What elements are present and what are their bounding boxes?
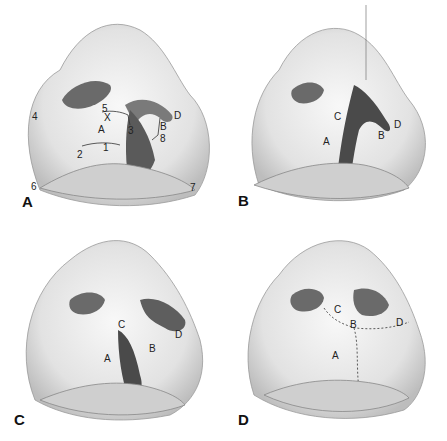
label-flap-a: A [104,354,111,364]
label-flap-c: C [334,305,341,315]
label-flap-d: D [174,111,181,121]
label-flap-b: B [160,122,167,132]
label-4: 4 [32,112,38,122]
panel-d: C B A D D [224,220,447,440]
label-flap-a: A [98,125,105,135]
label-flap-c: C [118,320,125,330]
nose-lip-illustration-b [224,0,447,220]
nose-lip-illustration-d [224,220,447,440]
panel-a: 5 X 4 A 3 1 2 D B 8 6 7 A [0,0,223,220]
label-7: 7 [190,183,196,193]
panel-letter-b: B [238,192,249,209]
label-2: 2 [77,150,83,160]
label-3: 3 [128,126,134,136]
label-x: X [104,113,111,123]
label-1: 1 [103,143,109,153]
label-flap-b: B [378,131,385,141]
label-flap-d: D [394,120,401,130]
panel-b: C A B D B [224,0,447,220]
label-flap-c: C [334,112,341,122]
label-flap-d: D [175,330,182,340]
label-6: 6 [31,182,37,192]
label-flap-d: D [396,318,403,328]
nose-lip-illustration-c [0,220,223,440]
panel-letter-d: D [238,411,249,428]
panel-letter-a: A [22,193,33,210]
panel-letter-c: C [14,411,25,428]
label-flap-b: B [350,320,357,330]
panel-c: C A B D C [0,220,223,440]
label-flap-a: A [323,137,330,147]
label-flap-b: B [149,344,156,354]
label-8: 8 [160,134,166,144]
label-flap-a: A [332,351,339,361]
